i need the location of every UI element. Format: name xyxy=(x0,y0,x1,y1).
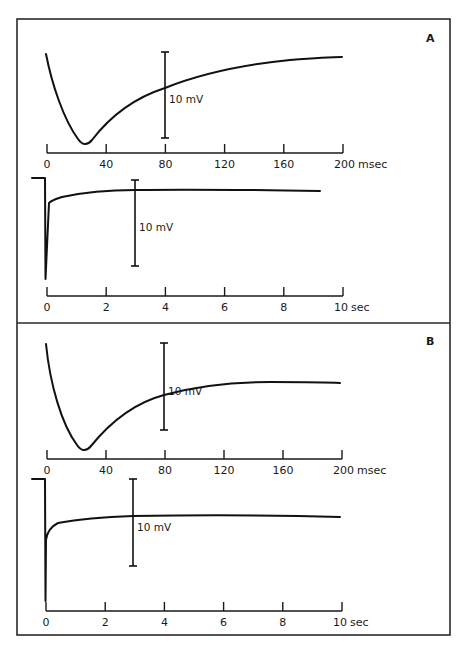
trace-b-slow: 0246810sec10 mV xyxy=(32,479,369,629)
tick-label: 4 xyxy=(161,616,168,629)
tick-label: 10 xyxy=(333,616,347,629)
tick-label: 0 xyxy=(44,464,51,477)
axis-unit-label: msec xyxy=(357,464,386,477)
tick-label: 160 xyxy=(273,158,294,171)
tick-label: 160 xyxy=(273,464,294,477)
tick-label: 2 xyxy=(103,301,110,314)
scale-bar: 10 mV xyxy=(129,479,172,566)
tick-label: 200 xyxy=(334,158,355,171)
panel-b: B04080120160200msec10 mV0246810sec10 mV xyxy=(32,335,434,629)
tick-label: 200 xyxy=(333,464,354,477)
tick-label: 8 xyxy=(280,301,287,314)
tick-label: 6 xyxy=(221,301,228,314)
tick-label: 0 xyxy=(44,158,51,171)
panel-label: A xyxy=(426,32,435,45)
tick-label: 6 xyxy=(220,616,227,629)
tick-label: 10 xyxy=(334,301,348,314)
voltage-trace xyxy=(32,479,340,601)
trace-b-fast: 04080120160200msec10 mV xyxy=(44,343,387,477)
tick-label: 40 xyxy=(99,158,113,171)
scale-bar: 10 mV xyxy=(160,343,203,430)
tick-label: 120 xyxy=(214,158,235,171)
panel-a: A04080120160200msec10 mV0246810sec10 mV xyxy=(32,32,435,314)
tick-label: 80 xyxy=(158,158,172,171)
voltage-trace xyxy=(46,344,340,450)
axis-unit-label: sec xyxy=(350,616,369,629)
panel-label: B xyxy=(426,335,434,348)
scale-bar-label: 10 mV xyxy=(137,521,172,533)
tick-label: 40 xyxy=(99,464,113,477)
scale-bar: 10 mV xyxy=(131,180,174,266)
tick-label: 8 xyxy=(279,616,286,629)
scale-bar-label: 10 mV xyxy=(139,221,174,233)
figure: A04080120160200msec10 mV0246810sec10 mVB… xyxy=(0,0,470,651)
axis-unit-label: sec xyxy=(351,301,370,314)
figure-frame xyxy=(17,19,450,635)
axis-unit-label: msec xyxy=(358,158,387,171)
tick-label: 0 xyxy=(44,301,51,314)
scale-bar-label: 10 mV xyxy=(168,385,203,397)
tick-label: 2 xyxy=(102,616,109,629)
trace-a-fast: 04080120160200msec10 mV xyxy=(44,52,388,171)
panels: A04080120160200msec10 mV0246810sec10 mVB… xyxy=(32,32,435,629)
tick-label: 4 xyxy=(162,301,169,314)
scale-bar-label: 10 mV xyxy=(169,93,204,105)
tick-label: 80 xyxy=(158,464,172,477)
trace-a-slow: 0246810sec10 mV xyxy=(32,178,370,314)
voltage-trace xyxy=(32,178,320,279)
tick-label: 120 xyxy=(214,464,235,477)
tick-label: 0 xyxy=(43,616,50,629)
scale-bar: 10 mV xyxy=(161,52,204,138)
